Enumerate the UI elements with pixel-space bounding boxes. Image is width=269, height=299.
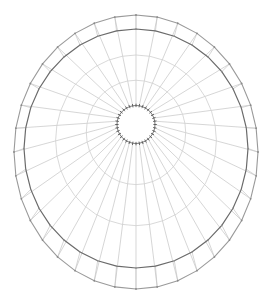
hub-tick [153,121,156,122]
outer-node [15,127,17,129]
spoke-outer-segment [43,225,51,240]
outer-node [196,32,198,34]
hub-tick [152,117,155,118]
main-node [246,169,247,170]
main-node [116,30,117,31]
hub-tick [153,128,156,129]
spoke-line [155,121,256,128]
spoke-line [30,134,119,221]
spoke-outer-segment [241,189,250,198]
spoke-outer-segment [192,252,197,271]
main-node [241,107,242,108]
main-node [135,267,136,268]
spoke-outer-segment [246,169,256,176]
spoke-line [152,84,241,116]
main-node [116,265,117,266]
outer-node [42,239,44,241]
outer-node [20,104,22,106]
spoke-line [148,139,214,257]
spoke-line [75,141,127,271]
main-node [241,189,242,190]
outer-node [229,239,231,241]
main-node [207,56,208,57]
spoke-line [30,84,119,116]
main-node [79,44,80,45]
spoke-outer-segment [94,261,97,281]
main-node [50,225,51,226]
hub-tick [132,104,133,107]
outer-node [29,220,31,222]
spoke-line [151,137,230,240]
main-node [79,251,80,252]
spoke-line [21,105,118,118]
spoke-outer-segment [30,208,39,220]
spoke-outer-segment [248,149,258,153]
spoke-outer-segment [75,252,80,271]
spoke-outer-segment [208,240,214,257]
main-node [25,127,26,128]
spoke-outer-segment [174,261,177,281]
outer-node [135,14,137,16]
main-node [38,88,39,89]
main-node [38,208,39,209]
spoke-outer-segment [233,208,242,220]
outer-node [156,286,158,288]
main-node [97,260,98,261]
outer-node [241,220,243,222]
main-node [23,148,24,149]
outer-node [250,198,252,200]
spoke-outer-segment [16,169,26,176]
hub-tick [139,142,140,145]
outer-node [114,16,116,18]
outer-node [74,270,76,272]
spoke-outer-segment [58,240,64,257]
hub-tick [116,121,119,122]
spoke-line [16,121,117,128]
hub-tick [129,141,130,144]
outer-node [74,32,76,34]
main-node [191,251,192,252]
outer-node [29,83,31,85]
outer-node [177,22,179,24]
main-node [207,239,208,240]
main-node [63,56,64,57]
main-node [174,260,175,261]
outer-node [42,63,44,65]
outer-node [93,280,95,282]
spoke-outer-segment [14,149,24,153]
main-node [50,71,51,72]
outer-node [196,270,198,272]
spoke-line [16,128,117,176]
main-node [155,30,156,31]
inner-hub-circle [115,104,157,146]
outer-node [114,286,116,288]
main-node [232,208,233,209]
outer-node [214,46,216,48]
spoke-line [155,128,256,176]
outer-node [20,198,22,200]
inner-circle-polygon [117,106,155,144]
main-node [25,169,26,170]
hub-tick [152,130,155,131]
hub-tick [132,142,133,145]
outer-node [13,151,15,153]
radial-spokes [14,15,258,289]
outer-node [214,256,216,258]
hub-tick [142,141,143,144]
main-node [246,127,247,128]
main-node [232,88,233,89]
spoke-outer-segment [21,189,30,198]
outer-node [255,127,257,129]
outer-node [257,151,259,153]
outer-node [135,288,137,290]
main-node [97,36,98,37]
spoke-line [58,139,124,257]
hub-tick [116,128,119,129]
outer-node [229,63,231,65]
main-node [135,28,136,29]
spoke-line [155,125,258,153]
main-node [191,44,192,45]
outer-node [156,16,158,18]
spoke-line [43,137,122,240]
hub-tick [116,117,119,118]
